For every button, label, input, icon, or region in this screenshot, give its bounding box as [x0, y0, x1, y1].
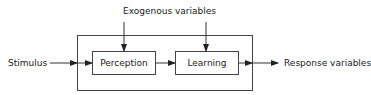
perception-label: Perception: [93, 52, 155, 74]
stimulus-label: Stimulus: [8, 59, 47, 68]
learning-label: Learning: [176, 52, 238, 74]
exogenous-variables-label: Exogenous variables: [123, 7, 216, 16]
response-variables-label: Response variables: [284, 59, 371, 68]
